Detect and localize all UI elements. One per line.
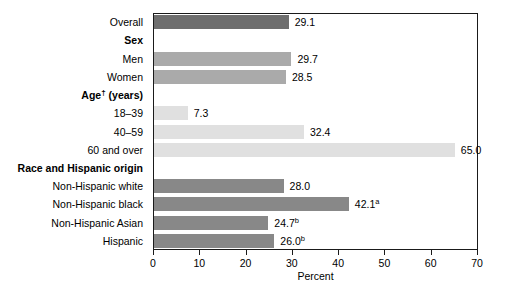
category-label-text: Race and Hispanic origin <box>18 162 143 174</box>
category-label-text: 18–39 <box>114 107 143 119</box>
x-axis-tick <box>431 250 432 255</box>
category-label-text: Age <box>81 89 101 101</box>
category-label: Non-Hispanic black <box>53 198 143 210</box>
category-axis-labels: OverallSexMenWomenAge† (years)18–3940–59… <box>0 13 149 250</box>
category-label-text: Non-Hispanic white <box>53 180 143 192</box>
category-label-text: Hispanic <box>103 235 143 247</box>
x-axis-tick-label: 70 <box>471 257 483 269</box>
x-axis-tick <box>292 250 293 255</box>
category-group-header: Sex <box>124 34 143 46</box>
x-axis-tick <box>246 250 247 255</box>
bar-chart: OverallSexMenWomenAge† (years)18–3940–59… <box>0 0 528 304</box>
category-label-text: 60 and over <box>88 144 143 156</box>
category-label-text: Men <box>123 53 143 65</box>
category-label-text: Non-Hispanic black <box>53 198 143 210</box>
x-axis: 010203040506070 <box>153 250 478 251</box>
x-axis-tick-label: 50 <box>379 257 391 269</box>
category-label: 60 and over <box>88 144 143 156</box>
category-label: Non-Hispanic Asian <box>51 217 143 229</box>
category-label: 40–59 <box>114 126 143 138</box>
category-group-header: Age† (years) <box>81 89 143 101</box>
category-label-text: 40–59 <box>114 126 143 138</box>
x-axis-tick-label: 60 <box>425 257 437 269</box>
category-label-text: Overall <box>110 16 143 28</box>
x-axis-tick <box>338 250 339 255</box>
x-axis-tick-label: 30 <box>286 257 298 269</box>
category-label: Men <box>123 53 143 65</box>
x-axis-tick-label: 0 <box>150 257 156 269</box>
category-label: Non-Hispanic white <box>53 180 143 192</box>
x-axis-tick-label: 10 <box>193 257 205 269</box>
x-axis-tick <box>384 250 385 255</box>
category-label: Women <box>107 71 143 83</box>
x-axis-tick-label: 40 <box>332 257 344 269</box>
category-label: 18–39 <box>114 107 143 119</box>
category-label-text: Sex <box>124 34 143 46</box>
category-group-header: Race and Hispanic origin <box>18 162 143 174</box>
x-axis-title: Percent <box>153 270 478 282</box>
category-label: Overall <box>110 16 143 28</box>
category-label-text: Women <box>107 71 143 83</box>
category-label: Hispanic <box>103 235 143 247</box>
x-axis-tick <box>477 250 478 255</box>
category-label-suffix: (years) <box>106 89 143 101</box>
x-axis-tick <box>199 250 200 255</box>
x-axis-tick-label: 20 <box>240 257 252 269</box>
x-axis-tick <box>153 250 154 255</box>
plot-area <box>153 13 478 250</box>
category-label-text: Non-Hispanic Asian <box>51 217 143 229</box>
